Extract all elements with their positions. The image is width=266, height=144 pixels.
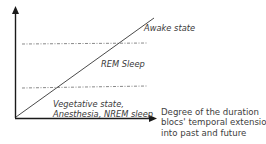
x-axis-label-line-3: into past and future — [161, 128, 266, 138]
awake-state-label: Awake state — [144, 24, 195, 34]
x-axis-label: Degree of the duration blocs' temporal e… — [161, 107, 266, 138]
rem-sleep-label: REM Sleep — [101, 60, 145, 70]
y-axis — [12, 6, 19, 118]
lower-threshold-line — [22, 86, 147, 88]
nrem-label-line-2: Anesthesia, NREM sleep — [53, 110, 153, 120]
nrem-region-label: Vegetative state, Anesthesia, NREM sleep — [53, 100, 153, 120]
upper-threshold-line — [22, 43, 147, 44]
x-axis-label-line-2: blocs' temporal extension — [161, 117, 266, 127]
x-axis-label-line-1: Degree of the duration — [161, 107, 266, 117]
y-axis-arrow-icon — [12, 6, 19, 14]
consciousness-diagram: Awake state REM Sleep Vegetative state, … — [0, 0, 266, 144]
